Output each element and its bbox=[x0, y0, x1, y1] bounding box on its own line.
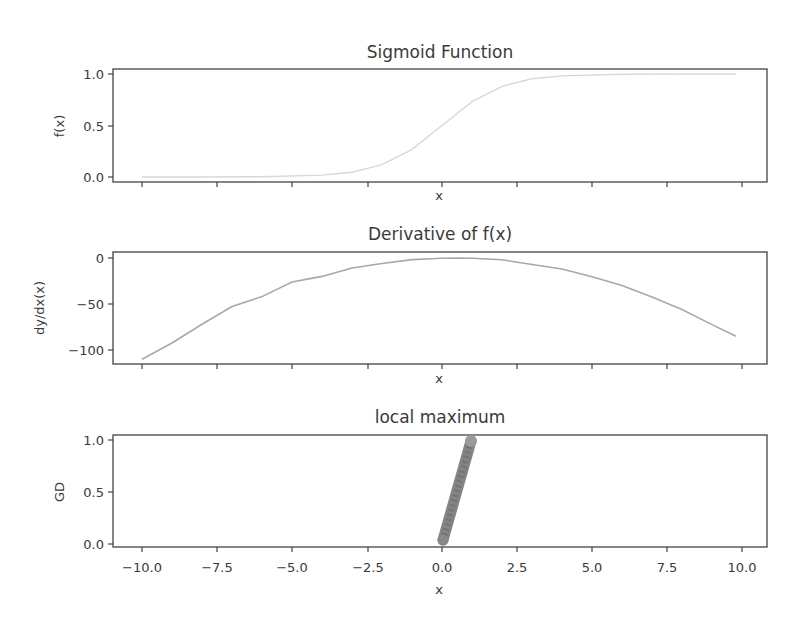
xtick-labels: −10.0 −7.5 −5.0 −2.5 0.0 2.5 5.0 7.5 10.… bbox=[122, 560, 756, 575]
x-axis-label: x bbox=[435, 188, 443, 203]
axes-frame bbox=[113, 435, 767, 547]
xtick-label: 0.0 bbox=[432, 560, 453, 575]
subplot-sigmoid: Sigmoid Function 1.0 0.5 0.0 f(x) x bbox=[52, 42, 767, 203]
xtick-label: −10.0 bbox=[122, 560, 162, 575]
subplot-title: Sigmoid Function bbox=[367, 42, 514, 62]
ytick-label: 1.0 bbox=[83, 67, 104, 82]
y-axis-label: f(x) bbox=[52, 115, 67, 137]
y-axis bbox=[108, 74, 113, 177]
ytick-label: −100 bbox=[68, 343, 104, 358]
xtick-label: −2.5 bbox=[352, 560, 384, 575]
xtick-label: 5.0 bbox=[582, 560, 603, 575]
ytick-label: 0.5 bbox=[83, 485, 104, 500]
x-axis bbox=[142, 547, 742, 552]
subplot-derivative: Derivative of f(x) 0 −50 −100 dy/dx(x) x bbox=[32, 224, 767, 386]
ytick-label: 0.0 bbox=[83, 537, 104, 552]
xtick-label: −7.5 bbox=[201, 560, 233, 575]
subplot-title: local maximum bbox=[375, 407, 506, 427]
ytick-label: 0.0 bbox=[83, 170, 104, 185]
ytick-label: 0 bbox=[96, 251, 104, 266]
gd-path-markers bbox=[438, 435, 478, 546]
derivative-line bbox=[142, 258, 736, 359]
sigmoid-line bbox=[142, 74, 736, 177]
x-axis bbox=[142, 182, 742, 187]
xtick-label: 7.5 bbox=[657, 560, 678, 575]
subplot-local-maximum: local maximum 1.0 0.5 0.0 GD −10.0 −7.5 … bbox=[52, 407, 767, 597]
ytick-label: 1.0 bbox=[83, 433, 104, 448]
ytick-label: 0.5 bbox=[83, 119, 104, 134]
x-axis bbox=[142, 364, 742, 369]
xtick-label: −5.0 bbox=[276, 560, 308, 575]
y-axis bbox=[108, 258, 113, 350]
x-axis-label: x bbox=[435, 582, 443, 597]
axes-frame bbox=[113, 252, 767, 364]
subplot-title: Derivative of f(x) bbox=[368, 224, 512, 244]
y-axis-label: dy/dx(x) bbox=[32, 281, 47, 335]
y-axis-label: GD bbox=[52, 482, 67, 502]
xtick-label: 2.5 bbox=[507, 560, 528, 575]
axes-frame bbox=[113, 69, 767, 182]
x-axis-label: x bbox=[435, 371, 443, 386]
ytick-label: −50 bbox=[77, 297, 104, 312]
xtick-label: 10.0 bbox=[728, 560, 757, 575]
figure: Sigmoid Function 1.0 0.5 0.0 f(x) x D bbox=[0, 0, 795, 627]
y-axis bbox=[108, 440, 113, 544]
